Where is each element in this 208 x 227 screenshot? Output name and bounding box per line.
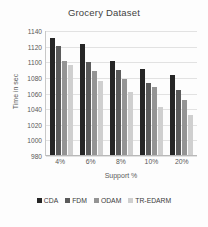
bar[interactable] <box>146 83 151 156</box>
legend-item[interactable]: ODAM <box>94 197 121 204</box>
bar[interactable] <box>116 70 121 156</box>
bar-group <box>79 31 103 156</box>
bar[interactable] <box>56 46 61 156</box>
legend-item[interactable]: TR-EDARM <box>128 197 171 204</box>
bar[interactable] <box>110 61 115 156</box>
bar[interactable] <box>158 107 163 156</box>
bar[interactable] <box>176 90 181 156</box>
legend-label: TR-EDARM <box>135 197 171 204</box>
bar[interactable] <box>140 69 145 157</box>
y-tick-label: 1140 <box>2 28 42 35</box>
bar[interactable] <box>128 92 133 156</box>
legend-item[interactable]: FDM <box>65 197 87 204</box>
chart-title: Grocery Dataset <box>0 7 208 18</box>
chart-legend: CDAFDMODAMTR-EDARM <box>0 197 208 204</box>
legend-swatch-icon <box>94 198 99 203</box>
bar-group <box>140 31 164 156</box>
bar[interactable] <box>68 65 73 156</box>
y-tick-label: 1060 <box>2 90 42 97</box>
bar-group <box>49 31 73 156</box>
plot-area <box>45 31 197 156</box>
bar[interactable] <box>80 44 85 157</box>
gridline <box>46 156 197 157</box>
bar[interactable] <box>170 75 175 156</box>
legend-swatch-icon <box>65 198 70 203</box>
x-axis-tick-labels: 4%6%8%10%20% <box>45 158 197 170</box>
bar[interactable] <box>182 100 187 156</box>
bar[interactable] <box>50 38 55 156</box>
legend-swatch-icon <box>128 198 133 203</box>
x-tick-label: 6% <box>75 158 105 165</box>
x-tick-label: 4% <box>45 158 75 165</box>
legend-label: CDA <box>44 197 58 204</box>
y-tick-label: 1000 <box>2 137 42 144</box>
y-tick-label: 1100 <box>2 59 42 66</box>
bar[interactable] <box>188 115 193 156</box>
y-tick-label: 1080 <box>2 74 42 81</box>
bar-groups <box>46 31 197 156</box>
x-axis-line <box>46 155 197 156</box>
bar[interactable] <box>86 62 91 156</box>
legend-label: FDM <box>72 197 87 204</box>
y-tick-label: 1020 <box>2 121 42 128</box>
x-tick-label: 8% <box>106 158 136 165</box>
y-axis-tick-labels: 11401120110010801060104010201000980 <box>0 31 42 156</box>
bar[interactable] <box>152 87 157 156</box>
bar[interactable] <box>98 81 103 156</box>
x-axis-title: Support % <box>45 172 197 179</box>
legend-swatch-icon <box>37 198 42 203</box>
chart-container: Grocery Dataset Time in sec 114011201100… <box>0 0 208 227</box>
legend-item[interactable]: CDA <box>37 197 58 204</box>
x-tick-label: 10% <box>136 158 166 165</box>
bar[interactable] <box>122 79 127 156</box>
bar[interactable] <box>62 61 67 156</box>
legend-label: ODAM <box>101 197 121 204</box>
bar[interactable] <box>92 71 97 156</box>
bar-group <box>170 31 194 156</box>
y-tick-label: 1120 <box>2 43 42 50</box>
bar-group <box>109 31 133 156</box>
x-tick-label: 20% <box>167 158 197 165</box>
y-tick-label: 1040 <box>2 106 42 113</box>
y-tick-label: 980 <box>2 153 42 160</box>
